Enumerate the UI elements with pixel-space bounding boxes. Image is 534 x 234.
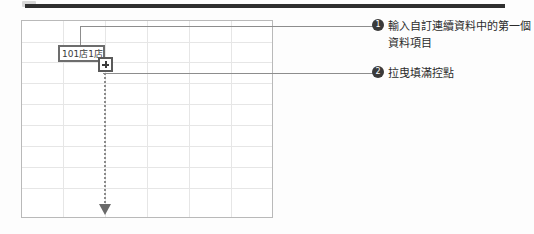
leader-line-1 (80, 26, 373, 27)
annotation-2: 2 拉曳填滿控點 (372, 65, 532, 82)
crosshair-plus-icon[interactable] (98, 57, 113, 72)
grid-row-line (22, 83, 272, 84)
annotation-1-text: 輸入自訂連續資料中的第一個資料項目 (388, 18, 532, 52)
grid-row-line (22, 167, 272, 168)
dotted-drag-line (104, 73, 106, 207)
annotation-2-text: 拉曳填滿控點 (388, 65, 454, 82)
grid-row-line (22, 188, 272, 189)
grid-row-line (22, 62, 272, 63)
annotation-1: 1 輸入自訂連續資料中的第一個資料項目 (372, 18, 532, 52)
dotted-down-arrow-icon (99, 204, 111, 215)
leader-stub-1 (80, 26, 81, 45)
spreadsheet-grid: 101店1店 (21, 20, 273, 218)
grid-row-line (22, 125, 272, 126)
leader-line-2 (103, 73, 373, 74)
selected-cell-value: 101店1店 (62, 48, 103, 61)
annotation-2-bullet: 2 (372, 66, 384, 78)
figure-canvas: 101店1店 1 輸入自訂連續資料中的第一個資料項目 2 拉曳填滿控點 (0, 0, 534, 234)
annotation-1-bullet: 1 (372, 19, 384, 31)
grid-row-line (22, 42, 272, 43)
grid-row-line (22, 104, 272, 105)
grid-row-line (22, 146, 272, 147)
top-rule (25, 4, 505, 8)
